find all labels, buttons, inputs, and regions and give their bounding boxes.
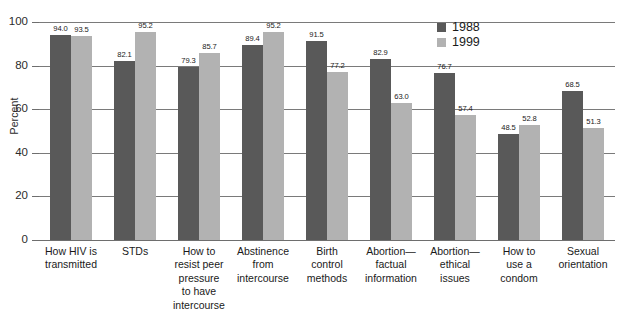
x-axis-label: How HIV is transmitted xyxy=(34,245,108,272)
x-axis-label: How to use a condom xyxy=(482,245,556,285)
bar-value-label: 77.2 xyxy=(318,61,358,70)
bar-1999[interactable]: 95.2 xyxy=(135,32,156,240)
y-tick-label: 0 xyxy=(0,234,28,246)
x-axis-label: Abstinence from intercourse xyxy=(226,245,300,285)
x-axis-label: Birth control methods xyxy=(290,245,364,285)
bar-value-label: 91.5 xyxy=(297,30,337,39)
y-axis-title: Percent xyxy=(8,76,20,156)
x-axis-label: Abortion— factual information xyxy=(354,245,428,285)
y-tick-mark xyxy=(32,153,39,154)
plot-area: 94.093.582.195.279.385.789.495.291.577.2… xyxy=(39,22,615,240)
y-tick-label: 20 xyxy=(0,190,28,202)
bar-group: 82.963.0 xyxy=(370,22,412,240)
bar-value-label: 85.7 xyxy=(190,42,230,51)
y-tick-mark xyxy=(32,240,39,241)
bar-group: 91.577.2 xyxy=(306,22,348,240)
x-axis-label: STDs xyxy=(98,245,172,258)
bar-1988[interactable]: 68.5 xyxy=(562,91,583,240)
legend-item-1988[interactable]: 1988 xyxy=(437,20,529,35)
bar-value-label: 51.3 xyxy=(574,117,614,126)
bar-group: 82.195.2 xyxy=(114,22,156,240)
y-tick-mark xyxy=(32,66,39,67)
bar-group: 79.385.7 xyxy=(178,22,220,240)
legend-swatch-icon-1988 xyxy=(437,23,446,32)
bar-value-label: 63.0 xyxy=(382,92,422,101)
bar-1988[interactable]: 89.4 xyxy=(242,45,263,240)
bar-1999[interactable]: 51.3 xyxy=(583,128,604,240)
y-tick-label: 80 xyxy=(0,60,28,72)
bar-1999[interactable]: 57.4 xyxy=(455,115,476,240)
bar-1988[interactable]: 82.9 xyxy=(370,59,391,240)
bar-1999[interactable]: 52.8 xyxy=(519,125,540,240)
bar-group: 89.495.2 xyxy=(242,22,284,240)
x-axis-baseline xyxy=(39,240,615,241)
bar-value-label: 93.5 xyxy=(62,25,102,34)
bar-value-label: 68.5 xyxy=(553,80,593,89)
bar-chart: Percent 020406080100 94.093.582.195.279.… xyxy=(0,0,630,322)
bar-value-label: 95.2 xyxy=(254,21,294,30)
bar-group: 68.551.3 xyxy=(562,22,604,240)
x-axis-label: How to resist peer pressure to have inte… xyxy=(162,245,236,312)
y-tick-mark xyxy=(32,22,39,23)
y-tick-label: 60 xyxy=(0,103,28,115)
x-axis-label: Sexual orientation xyxy=(546,245,620,272)
bar-value-label: 82.9 xyxy=(361,48,401,57)
legend: 1988 1999 xyxy=(437,20,529,50)
bar-1988[interactable]: 94.0 xyxy=(50,35,71,240)
y-tick-label: 100 xyxy=(0,16,28,28)
x-axis-label: Abortion— ethical issues xyxy=(418,245,492,285)
legend-item-1999[interactable]: 1999 xyxy=(437,35,529,50)
bar-value-label: 57.4 xyxy=(446,104,486,113)
bar-value-label: 95.2 xyxy=(126,21,166,30)
bar-group: 48.552.8 xyxy=(498,22,540,240)
bar-1999[interactable]: 77.2 xyxy=(327,72,348,240)
bar-1988[interactable]: 82.1 xyxy=(114,61,135,240)
bar-1988[interactable]: 91.5 xyxy=(306,41,327,240)
y-tick-mark xyxy=(32,196,39,197)
bar-1999[interactable]: 95.2 xyxy=(263,32,284,240)
bar-group: 76.757.4 xyxy=(434,22,476,240)
bar-1999[interactable]: 85.7 xyxy=(199,53,220,240)
bar-1999[interactable]: 63.0 xyxy=(391,103,412,240)
bar-group: 94.093.5 xyxy=(50,22,92,240)
bar-1988[interactable]: 79.3 xyxy=(178,67,199,240)
bar-1988[interactable]: 48.5 xyxy=(498,134,519,240)
bar-value-label: 52.8 xyxy=(510,114,550,123)
legend-label-1999: 1999 xyxy=(452,36,480,49)
y-tick-label: 40 xyxy=(0,147,28,159)
y-tick-mark xyxy=(32,109,39,110)
legend-swatch-icon-1999 xyxy=(437,38,446,47)
bar-1999[interactable]: 93.5 xyxy=(71,36,92,240)
bar-value-label: 76.7 xyxy=(425,62,465,71)
bar-1988[interactable]: 76.7 xyxy=(434,73,455,240)
legend-label-1988: 1988 xyxy=(452,21,480,34)
